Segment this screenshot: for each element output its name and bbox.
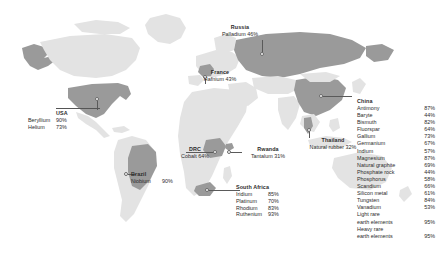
land-madagascar (223, 166, 232, 184)
callout-china-row: Natural graphite 69% (357, 162, 441, 169)
material-label: Tantalum (251, 153, 273, 159)
callout-china-row: Indium 57% (357, 148, 441, 155)
share-value: 95% (411, 233, 435, 240)
callout-china-row-light-rare-earth: earth elements 95% (357, 219, 441, 226)
share-value: 64% (198, 153, 209, 159)
callout-china-row: Baryte 44% (357, 112, 441, 119)
material-label: Iridium (236, 191, 268, 198)
callout-drc-country: DRC (168, 146, 222, 153)
land-russia (234, 32, 366, 78)
share-value: 90% (56, 117, 76, 124)
callout-south-africa-row: Iridium 85% (236, 191, 316, 198)
callout-china-row-light-rare-earth: Light rare (357, 211, 441, 218)
share-value: 31% (274, 153, 285, 159)
land-caribbean (112, 126, 130, 133)
share-value: 69% (411, 162, 435, 169)
share-value: 57% (411, 148, 435, 155)
material-label: Hafnium (204, 76, 224, 82)
material-label: Cobalt (181, 153, 197, 159)
material-label: Phosphorus (357, 176, 411, 183)
material-label: Silicon metal (357, 190, 411, 197)
material-label: Platinum (236, 198, 268, 205)
material-label: Baryte (357, 112, 411, 119)
share-value: 61% (411, 190, 435, 197)
callout-usa-header: USA (56, 108, 100, 117)
share-value: 83% (268, 205, 290, 212)
material-label: Tungsten (357, 197, 411, 204)
callout-rwanda-country: Rwanda (240, 146, 296, 153)
callout-south-africa-row: Ruthenium 93% (236, 211, 316, 218)
callout-brazil-row: Niobium 90% (131, 178, 205, 185)
marker-brazil (124, 172, 128, 176)
share-value: 44% (411, 169, 435, 176)
material-label-line1: Heavy rare (357, 226, 383, 232)
material-label: Beryllium (28, 117, 56, 124)
material-label-line2: earth elements (357, 233, 411, 240)
share-value: 85% (268, 191, 290, 198)
material-label: Phosphate rock (357, 169, 411, 176)
callout-russia: Russia Palladium 46% (208, 24, 272, 38)
callout-russia-country: Russia (208, 24, 272, 31)
callout-france: France Hafnium 43% (190, 69, 250, 83)
marker-china (319, 94, 323, 98)
share-value: 53% (411, 204, 435, 211)
marker-south-africa (205, 188, 209, 192)
material-label: Vanadium (357, 204, 411, 211)
share-value: 90% (162, 178, 173, 185)
callout-south-africa-row: Platinum 70% (236, 198, 316, 205)
callout-china-row: Gallium 73% (357, 133, 441, 140)
material-label: Germanium (357, 140, 411, 147)
callout-rwanda: Rwanda Tantalum 31% (240, 146, 296, 160)
marker-usa (95, 97, 99, 101)
callout-china: China Antimony 87% Baryte 44% Bismuth 82… (357, 98, 441, 240)
land-central-asia (252, 76, 300, 94)
callout-france-row: Hafnium 43% (190, 76, 250, 83)
share-value: 67% (411, 140, 435, 147)
callout-china-row: Tungsten 84% (357, 197, 441, 204)
callout-china-row-heavy-rare-earth: earth elements 95% (357, 233, 441, 240)
share-value: 95% (411, 219, 435, 226)
leader-line-china (322, 96, 352, 97)
material-label: Scandium (357, 183, 411, 190)
callout-brazil: Brazil Niobium 90% (131, 171, 205, 185)
share-value: 73% (411, 133, 435, 140)
material-label-line1: Light rare (357, 211, 380, 217)
callout-china-row: Phosphorus 58% (357, 176, 441, 183)
callout-usa-country: USA (56, 110, 100, 117)
material-label: Antimony (357, 105, 411, 112)
share-value: 58% (411, 176, 435, 183)
share-value: 64% (411, 126, 435, 133)
callout-china-row: Silicon metal 61% (357, 190, 441, 197)
callout-china-row-heavy-rare-earth: Heavy rare (357, 226, 441, 233)
callout-russia-row: Palladium 46% (208, 31, 272, 38)
land-japan (352, 78, 366, 94)
share-value: 84% (411, 197, 435, 204)
callout-drc-row: Cobalt 64% (168, 153, 222, 160)
callout-rwanda-row: Tantalum 31% (240, 153, 296, 160)
share-value: 87% (411, 105, 435, 112)
callout-brazil-country: Brazil (131, 171, 205, 178)
land-philippines (329, 118, 340, 132)
material-label: Niobium (131, 178, 162, 185)
share-value: 73% (56, 124, 76, 131)
material-label: Natural graphite (357, 162, 411, 169)
callout-usa-row: Helium 73% (28, 124, 100, 131)
callout-china-row: Antimony 87% (357, 105, 441, 112)
share-value: 70% (268, 198, 290, 205)
callout-drc: DRC Cobalt 64% (168, 146, 222, 160)
land-kamchatka (366, 44, 394, 62)
material-label: Fluorspar (357, 126, 411, 133)
material-label: Ruthenium (236, 211, 268, 218)
callout-south-africa-country: South Africa (236, 184, 316, 191)
callout-china-row: Fluorspar 64% (357, 126, 441, 133)
share-value: 46% (247, 31, 258, 37)
land-greenland (145, 14, 186, 44)
marker-thailand (307, 128, 311, 132)
material-label: Helium (28, 124, 56, 131)
material-label: Rhodium (236, 205, 268, 212)
callout-china-row: Phosphate rock 44% (357, 169, 441, 176)
callout-china-row: Germanium 67% (357, 140, 441, 147)
material-label: Bismuth (357, 119, 411, 126)
callout-china-row: Bismuth 82% (357, 119, 441, 126)
material-label: Natural rubber (310, 144, 344, 150)
